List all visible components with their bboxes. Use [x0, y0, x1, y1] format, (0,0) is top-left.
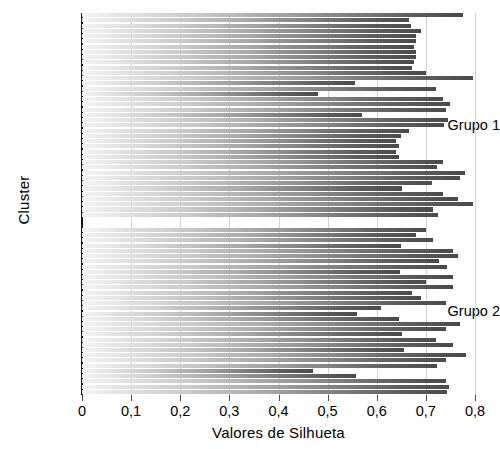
- silhouette-bar: [82, 338, 436, 342]
- silhouette-bar: [82, 348, 404, 352]
- x-tick-label: 0,5: [308, 403, 348, 419]
- x-tick-mark: [229, 395, 230, 401]
- silhouette-bar: [82, 291, 412, 295]
- silhouette-bar: [82, 144, 399, 148]
- silhouette-bar: [82, 343, 453, 347]
- silhouette-bar: [82, 186, 402, 190]
- silhouette-bar: [82, 155, 399, 159]
- x-tick-mark: [131, 395, 132, 401]
- x-tick-label: 0,2: [160, 403, 200, 419]
- silhouette-bar: [82, 55, 416, 59]
- silhouette-bar: [82, 171, 465, 175]
- silhouette-bar: [82, 34, 416, 38]
- silhouette-bar: [82, 97, 443, 101]
- x-tick-mark: [82, 395, 83, 401]
- silhouette-bar: [82, 202, 473, 206]
- x-tick-mark: [328, 395, 329, 401]
- silhouette-bar: [82, 60, 414, 64]
- x-tick-label: 0,6: [357, 403, 397, 419]
- x-tick-label: 0,7: [406, 403, 446, 419]
- x-tick-label: 0,1: [111, 403, 151, 419]
- x-tick-label: 0,8: [455, 403, 495, 419]
- silhouette-bar: [82, 76, 473, 80]
- silhouette-bar: [82, 66, 412, 70]
- silhouette-bar: [82, 244, 401, 248]
- silhouette-bar: [82, 249, 453, 253]
- silhouette-bar: [82, 379, 446, 383]
- silhouette-bar: [82, 301, 446, 305]
- silhouette-bar: [82, 71, 426, 75]
- x-tick-mark: [475, 395, 476, 401]
- silhouette-bar: [82, 160, 443, 164]
- silhouette-bar: [82, 358, 446, 362]
- grid-line: [475, 13, 476, 395]
- silhouette-bar: [82, 364, 437, 368]
- silhouette-bar: [82, 312, 357, 316]
- silhouette-bar: [82, 306, 381, 310]
- silhouette-bar: [82, 134, 401, 138]
- silhouette-bar: [82, 228, 426, 232]
- silhouette-bar: [82, 176, 460, 180]
- silhouette-bar: [82, 374, 356, 378]
- cluster-group-2-bars: [82, 228, 475, 395]
- silhouette-bar: [82, 81, 355, 85]
- silhouette-bar: [82, 165, 437, 169]
- x-tick-label: 0,3: [209, 403, 249, 419]
- silhouette-bar: [82, 197, 458, 201]
- silhouette-bar: [82, 118, 448, 122]
- silhouette-bar: [82, 13, 463, 17]
- silhouette-bar: [82, 353, 466, 357]
- x-tick-label: 0: [62, 403, 102, 419]
- x-tick-mark: [279, 395, 280, 401]
- silhouette-bar: [82, 24, 411, 28]
- x-tick-mark: [180, 395, 181, 401]
- silhouette-bar: [82, 327, 446, 331]
- silhouette-bar: [82, 332, 402, 336]
- silhouette-bar: [82, 259, 439, 263]
- silhouette-bar: [82, 29, 421, 33]
- silhouette-bar: [82, 92, 318, 96]
- silhouette-bar: [82, 18, 409, 22]
- silhouette-bar: [82, 265, 447, 269]
- silhouette-bar: [82, 280, 426, 284]
- silhouette-bar: [82, 129, 409, 133]
- silhouette-bar: [82, 50, 416, 54]
- silhouette-bar: [82, 270, 400, 274]
- silhouette-bar: [82, 385, 449, 389]
- silhouette-bar: [82, 285, 453, 289]
- silhouette-bar: [82, 207, 433, 211]
- y-axis-label: Cluster: [15, 170, 32, 230]
- x-tick-mark: [426, 395, 427, 401]
- silhouette-bar: [82, 139, 396, 143]
- silhouette-bar: [82, 108, 446, 112]
- x-axis-label: Valores de Silhueta: [82, 424, 475, 441]
- silhouette-bar: [82, 87, 436, 91]
- silhouette-bar: [82, 233, 416, 237]
- x-tick-mark: [377, 395, 378, 401]
- x-axis: 00,10,20,30,40,50,60,70,8: [82, 395, 475, 396]
- x-tick-label: 0,4: [259, 403, 299, 419]
- silhouette-bar: [82, 123, 444, 127]
- silhouette-bar: [82, 39, 416, 43]
- silhouette-bar: [82, 102, 450, 106]
- silhouette-bar: [82, 150, 396, 154]
- silhouette-bar: [82, 254, 458, 258]
- silhouette-plot-figure: Cluster Grupo 1 Grupo 2 00,10,20,30,40,5…: [0, 0, 500, 449]
- plot-area: [82, 13, 475, 395]
- silhouette-bar: [82, 238, 433, 242]
- silhouette-bar: [82, 390, 447, 394]
- silhouette-bar: [82, 275, 453, 279]
- silhouette-bar: [82, 322, 460, 326]
- silhouette-bar: [82, 113, 362, 117]
- silhouette-bar: [82, 45, 414, 49]
- cluster-group-1-bars: [82, 13, 475, 218]
- silhouette-bar: [82, 213, 438, 217]
- silhouette-bar: [82, 296, 421, 300]
- silhouette-bar: [82, 369, 313, 373]
- silhouette-bar: [82, 181, 432, 185]
- silhouette-bar: [82, 192, 443, 196]
- silhouette-bar: [82, 317, 399, 321]
